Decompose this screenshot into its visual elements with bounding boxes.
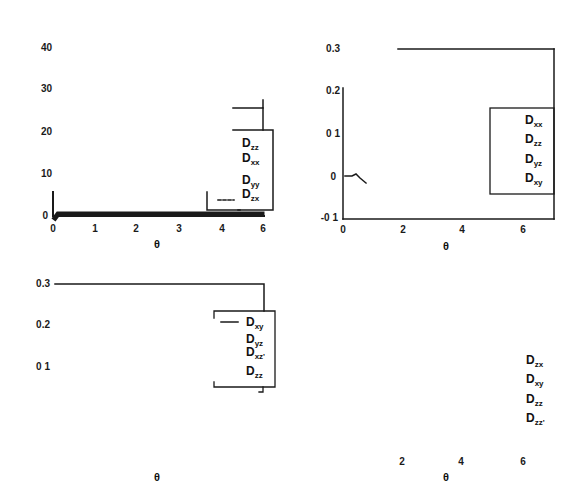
br-xtick: 4 xyxy=(453,457,469,467)
tr-xtick: 2 xyxy=(395,225,411,235)
tl-xtick: 2 xyxy=(128,224,144,234)
br-legend-entry: Dzx xyxy=(526,354,543,371)
bl-legend-entry: Dxz' xyxy=(246,346,265,363)
tr-ytick: 0.3 xyxy=(310,44,340,54)
br-legend-entry: Dzz' xyxy=(526,412,545,429)
tr-xtick: 4 xyxy=(454,225,470,235)
br-xtick: 6 xyxy=(515,457,531,467)
tl-main-curve xyxy=(55,214,262,218)
bl-x-axis-label: θ xyxy=(151,471,163,483)
tl-ytick: 0 xyxy=(18,211,48,221)
tr-ytick: 0.2 xyxy=(310,86,340,96)
tl-ytick: 10 xyxy=(22,169,52,179)
tl-xtick: 3 xyxy=(171,224,187,234)
br-xtick: 2 xyxy=(394,457,410,467)
tl-xtick: 1 xyxy=(87,224,103,234)
tr-legend-entry: Dxy xyxy=(525,172,543,189)
tl-ytick: 30 xyxy=(22,84,52,94)
tr-ytick: 0 1 xyxy=(310,129,340,139)
tr-legend-box xyxy=(490,108,554,194)
plot-lines xyxy=(0,0,578,504)
br-legend-entry: Dzz xyxy=(526,393,543,410)
tl-ytick: 20 xyxy=(22,127,52,137)
bl-top-line xyxy=(55,284,264,311)
bl-legend-entry: Dzz xyxy=(246,365,263,382)
bl-legend-box xyxy=(214,311,275,392)
tr-ytick: -0 1 xyxy=(308,213,338,223)
tr-x-axis-label: θ xyxy=(440,240,452,252)
tr-legend-entry: Dyz xyxy=(525,153,542,170)
tr-ytick: 0 xyxy=(306,172,336,182)
tl-ytick: 40 xyxy=(22,43,52,53)
tl-xtick: 4 xyxy=(214,224,230,234)
br-legend-entry: Dxy xyxy=(526,373,544,390)
bl-ytick: 0.2 xyxy=(20,320,50,330)
figure: 40 30 20 10 0 0 1 2 3 4 6 θ Dzz Dxx Dyy … xyxy=(0,0,578,504)
tr-xtick: 6 xyxy=(515,225,531,235)
bl-legend-entry: Dxy xyxy=(246,316,264,333)
tr-legend-entry: Dxx xyxy=(525,114,543,131)
tl-legend-box xyxy=(207,100,273,210)
tl-xtick: 6 xyxy=(255,224,271,234)
br-x-axis-label: θ xyxy=(440,471,452,483)
bl-ytick: 0.3 xyxy=(20,279,50,289)
bl-ytick: 0 1 xyxy=(20,362,50,372)
tr-xtick: 0 xyxy=(335,225,351,235)
tr-legend-entry: Dzz xyxy=(525,133,542,150)
tr-curve xyxy=(345,174,366,183)
tl-legend-entry: Dxx xyxy=(242,152,260,169)
tl-xtick: 0 xyxy=(45,224,61,234)
tl-legend-entry: Dzx xyxy=(242,188,259,205)
tl-x-axis-label: θ xyxy=(151,238,163,250)
